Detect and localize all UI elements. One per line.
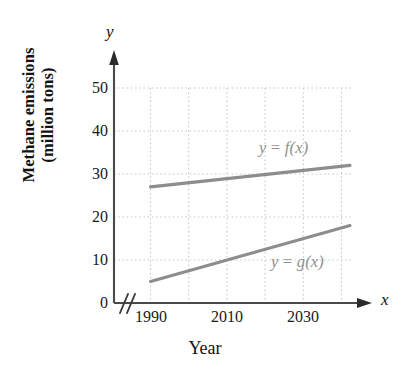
x-axis-variable-label: x bbox=[381, 290, 389, 310]
series-label-f-fn: f(x) bbox=[285, 138, 309, 157]
y-axis-title: Methane emissions (million tons) bbox=[15, 15, 61, 215]
series-line-f bbox=[151, 165, 351, 187]
y-axis-arrowhead bbox=[109, 50, 119, 65]
y-tick-label-10: 10 bbox=[74, 251, 108, 269]
x-tick-label-2010: 2010 bbox=[197, 308, 257, 326]
y-tick-label-0: 0 bbox=[74, 294, 108, 312]
x-tick-label-1990: 1990 bbox=[121, 308, 181, 326]
x-tick-label-2030: 2030 bbox=[273, 308, 333, 326]
series-label-f: y = f(x) bbox=[259, 138, 308, 158]
series-label-f-op: = bbox=[271, 138, 281, 157]
y-tick-label-40: 40 bbox=[74, 122, 108, 140]
y-tick-label-30: 30 bbox=[74, 165, 108, 183]
chart-figure: Methane emissions (million tons) 50 40 3… bbox=[0, 0, 410, 373]
series-label-g-y: y bbox=[271, 252, 279, 271]
y-axis-title-line1: Methane emissions bbox=[19, 47, 38, 182]
x-axis-title: Year bbox=[0, 338, 410, 359]
y-tick-label-50: 50 bbox=[74, 79, 108, 97]
series-label-g-fn: g(x) bbox=[297, 252, 324, 271]
series-label-g: y = g(x) bbox=[271, 252, 324, 272]
y-tick-label-20: 20 bbox=[74, 208, 108, 226]
series-label-f-y: y bbox=[259, 138, 267, 157]
x-axis-arrowhead bbox=[357, 298, 372, 308]
y-axis-variable-label: y bbox=[106, 22, 114, 42]
y-axis-title-line2: (million tons) bbox=[38, 67, 57, 162]
series-label-g-op: = bbox=[283, 252, 293, 271]
